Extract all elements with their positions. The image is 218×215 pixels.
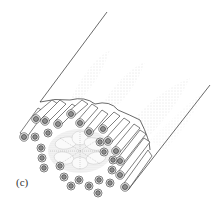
panel-label: (c) xyxy=(16,176,28,188)
centriole-illustration xyxy=(0,0,218,215)
